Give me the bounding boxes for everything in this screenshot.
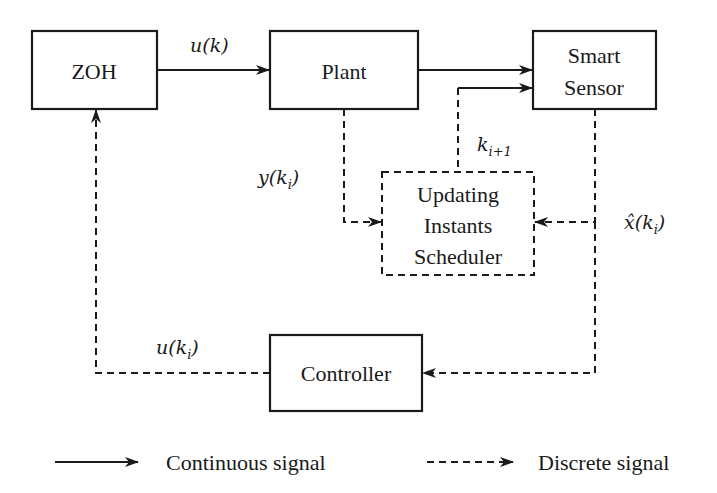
legend-discrete-label: Discrete signal <box>538 450 669 475</box>
controller-label: Controller <box>301 361 392 386</box>
smart-sensor-block: Smart Sensor <box>533 31 656 109</box>
sensor-label-line1: Smart <box>568 43 621 68</box>
sensor-to-scheduler-dashed-arrow <box>535 109 595 222</box>
plant-to-scheduler-dashed-arrow <box>344 109 381 222</box>
signal-u-k: u(k) <box>190 34 229 56</box>
sensor-label-line2: Sensor <box>564 75 625 100</box>
legend-continuous-label: Continuous signal <box>166 450 326 475</box>
zoh-label: ZOH <box>71 59 116 84</box>
signal-u-ki: u(ki) <box>156 336 199 362</box>
scheduler-block: Updating Instants Scheduler <box>382 172 534 275</box>
signal-xhat-ki: x̂(ki) <box>624 211 665 237</box>
legend: Continuous signal Discrete signal <box>55 450 669 475</box>
plant-label: Plant <box>321 59 366 84</box>
controller-to-zoh-dashed-arrow <box>96 110 270 373</box>
scheduler-label-line1: Updating <box>417 182 499 207</box>
signal-k-next: ki+1 <box>477 133 512 159</box>
scheduler-label-line3: Scheduler <box>414 244 503 269</box>
block-diagram: ZOH Plant Smart Sensor Updating Instants… <box>0 0 717 493</box>
signal-y-ki: y(ki) <box>257 166 299 192</box>
zoh-block: ZOH <box>32 31 157 109</box>
scheduler-label-line2: Instants <box>424 213 492 238</box>
plant-block: Plant <box>270 31 418 109</box>
controller-block: Controller <box>270 335 422 411</box>
